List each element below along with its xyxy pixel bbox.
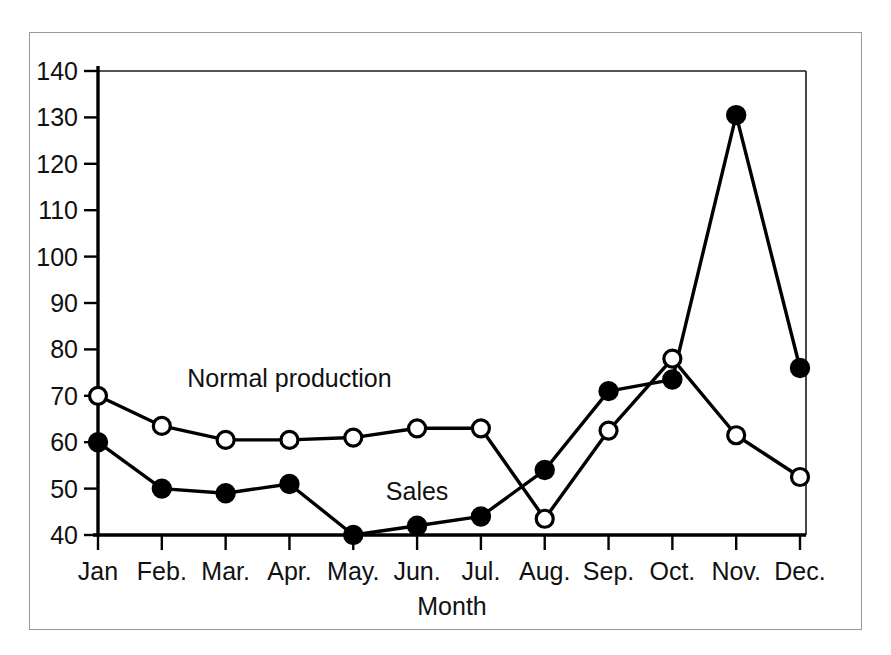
data-point-sales — [791, 359, 809, 377]
series-line-sales — [98, 115, 800, 535]
series-annotation: Normal production — [187, 364, 391, 392]
x-tick-label: Nov. — [711, 557, 761, 585]
y-tick-label: 40 — [50, 521, 78, 549]
data-point-sales — [280, 475, 298, 493]
data-point-sales — [663, 371, 681, 389]
data-point-normal-production — [536, 510, 553, 527]
data-point-normal-production — [409, 420, 426, 437]
data-point-sales — [727, 106, 745, 124]
x-tick-label: Jun. — [393, 557, 440, 585]
y-tick-label: 90 — [50, 289, 78, 317]
x-tick-label: Mar. — [201, 557, 250, 585]
x-tick-label: Jul. — [461, 557, 500, 585]
data-point-normal-production — [728, 427, 745, 444]
data-point-sales — [153, 480, 171, 498]
y-tick-label: 140 — [36, 57, 78, 85]
x-tick-label: Apr. — [267, 557, 311, 585]
x-tick-label: Feb. — [137, 557, 187, 585]
data-point-normal-production — [153, 417, 170, 434]
y-tick-label: 130 — [36, 103, 78, 131]
y-tick-label: 50 — [50, 475, 78, 503]
y-tick-label: 120 — [36, 150, 78, 178]
x-tick-group: JanFeb.Mar.Apr.May.Jun.Jul.Aug.Sep.Oct.N… — [78, 535, 826, 585]
data-point-sales — [344, 526, 362, 544]
x-tick-label: Aug. — [519, 557, 570, 585]
y-tick-label: 110 — [38, 196, 78, 224]
chart-figure: 405060708090100110120130140 JanFeb.Mar.A… — [0, 0, 891, 655]
data-point-sales — [472, 507, 490, 525]
x-tick-label: Sep. — [583, 557, 634, 585]
x-tick-label: Dec. — [774, 557, 825, 585]
data-point-sales — [600, 382, 618, 400]
y-tick-label: 70 — [50, 382, 78, 410]
data-point-sales — [89, 433, 107, 451]
data-point-normal-production — [345, 429, 362, 446]
data-point-normal-production — [217, 431, 234, 448]
series-annotation: Sales — [386, 477, 449, 505]
data-point-sales — [536, 461, 554, 479]
data-point-normal-production — [600, 422, 617, 439]
x-axis-title: Month — [417, 592, 486, 620]
plot-frame — [98, 71, 806, 535]
y-tick-label: 60 — [50, 428, 78, 456]
data-point-normal-production — [792, 469, 809, 486]
x-tick-label: Jan — [78, 557, 118, 585]
x-tick-label: Oct. — [649, 557, 695, 585]
data-point-normal-production — [472, 420, 489, 437]
series-layer — [89, 106, 809, 544]
x-tick-label: May. — [327, 557, 379, 585]
data-point-normal-production — [664, 350, 681, 367]
data-point-sales — [217, 484, 235, 502]
y-tick-label: 100 — [36, 243, 78, 271]
y-tick-label: 80 — [50, 335, 78, 363]
line-chart: 405060708090100110120130140 JanFeb.Mar.A… — [0, 0, 891, 655]
data-point-sales — [408, 517, 426, 535]
y-tick-group: 405060708090100110120130140 — [36, 57, 98, 549]
data-point-normal-production — [90, 387, 107, 404]
data-point-normal-production — [281, 431, 298, 448]
